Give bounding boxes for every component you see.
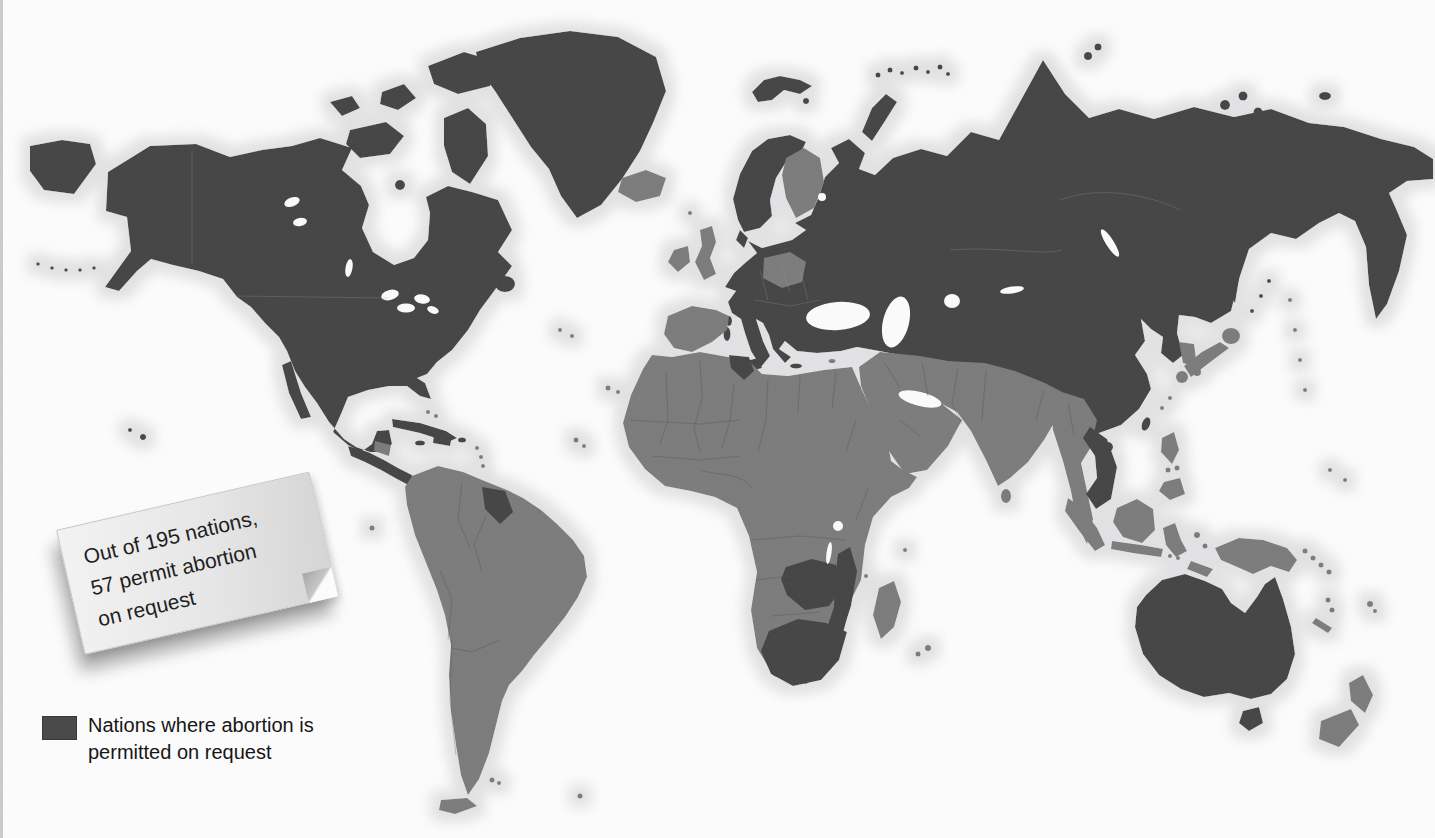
legend-line-1: Nations where abortion is xyxy=(88,712,314,739)
map-legend: Nations where abortion is permitted on r… xyxy=(42,712,314,766)
page-scan-edge xyxy=(0,0,3,838)
scanned-map-page: Out of 195 nations, 57 permit abortion o… xyxy=(0,0,1435,838)
legend-label: Nations where abortion is permitted on r… xyxy=(88,712,314,766)
legend-line-2: permitted on request xyxy=(88,739,314,766)
legend-swatch-permitted xyxy=(42,716,77,740)
